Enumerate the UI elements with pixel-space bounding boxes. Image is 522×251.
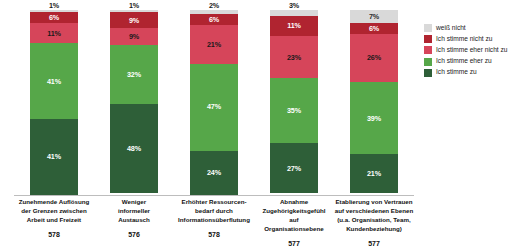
bar-segment[interactable]: 9% <box>110 12 158 29</box>
bar-segment[interactable]: 24% <box>190 151 238 195</box>
category-label: AbnahmeZugehörigkeitsgefühlaufOrganisati… <box>254 198 334 249</box>
segment-value-label: 21% <box>207 41 221 48</box>
category-label-line: Zugehörigkeitsgefühl <box>254 207 334 216</box>
bar-stack[interactable]: 1%9%9%32%48% <box>110 10 158 195</box>
bar-segment[interactable]: 26% <box>350 34 398 82</box>
category-label: Zunehmende Auflösungder Grenzen zwischen… <box>14 198 94 249</box>
segment-value-label: 1% <box>129 2 139 9</box>
bar-segment[interactable]: 47% <box>190 64 238 151</box>
segment-value-label: 41% <box>47 78 61 85</box>
segment-value-label: 7% <box>369 13 379 20</box>
segment-value-label: 3% <box>289 2 299 9</box>
legend-swatch-icon <box>424 46 432 54</box>
segment-value-label: 24% <box>207 169 221 176</box>
bar-stack[interactable]: 7%6%26%39%21% <box>350 10 398 195</box>
bar-stack[interactable]: 2%6%21%47%24% <box>190 10 238 195</box>
category-label-line: auf <box>254 216 334 225</box>
legend-swatch-icon <box>424 69 432 77</box>
segment-value-label: 32% <box>127 71 141 78</box>
sample-size: 577 <box>334 239 414 249</box>
sample-size: 577 <box>254 239 334 249</box>
segment-value-label: 9% <box>129 17 139 24</box>
bar-group: 3%11%23%35%27% <box>254 10 334 195</box>
bar-group: 1%6%11%41%41% <box>14 10 94 195</box>
bar-group: 2%6%21%47%24% <box>174 10 254 195</box>
segment-value-label: 6% <box>209 16 219 23</box>
bar-segment[interactable]: 7% <box>350 10 398 23</box>
bar-segment[interactable]: 11% <box>270 16 318 36</box>
bar-segment[interactable]: 39% <box>350 82 398 154</box>
segment-value-label: 26% <box>367 54 381 61</box>
chart-legend: weiß nichtIch stimme nicht zuIch stimme … <box>424 24 520 80</box>
sample-size: 578 <box>174 230 254 240</box>
segment-value-label: 41% <box>47 153 61 160</box>
segment-value-label: 6% <box>369 25 379 32</box>
category-label-line: informeller <box>94 207 174 216</box>
stacked-bar-chart: 1%6%11%41%41%1%9%9%32%48%2%6%21%47%24%3%… <box>0 0 522 251</box>
legend-swatch-icon <box>424 58 432 66</box>
category-axis-labels: Zunehmende Auflösungder Grenzen zwischen… <box>14 198 414 249</box>
category-label-line: Etablierung von Vertrauen <box>334 198 414 207</box>
category-label-line: Abnahme <box>254 198 334 207</box>
segment-value-label: 35% <box>287 107 301 114</box>
legend-item[interactable]: Ich stimme zu <box>424 69 520 77</box>
category-label-line: Arbeit und Freizeit <box>14 216 94 225</box>
category-label-line: Weniger <box>94 198 174 207</box>
legend-item[interactable]: weiß nicht <box>424 24 520 32</box>
segment-value-label: 47% <box>207 103 221 110</box>
bar-stack[interactable]: 3%11%23%35%27% <box>270 10 318 195</box>
legend-label: weiß nicht <box>436 25 466 32</box>
legend-label: Ich stimme nicht zu <box>436 36 492 43</box>
segment-value-label: 27% <box>287 165 301 172</box>
category-label-line: bedarf durch <box>174 207 254 216</box>
bar-segment[interactable]: 48% <box>110 104 158 193</box>
bar-segment[interactable]: 11% <box>30 23 78 43</box>
segment-value-label: 48% <box>127 145 141 152</box>
segment-value-label: 1% <box>49 2 59 9</box>
sample-size: 576 <box>94 230 174 240</box>
category-label-line: Organisationsebene <box>254 225 334 234</box>
segment-value-label: 11% <box>47 30 61 37</box>
bar-segment[interactable]: 35% <box>270 78 318 143</box>
legend-label: Ich stimme zu <box>436 69 477 76</box>
segment-value-label: 9% <box>129 33 139 40</box>
bar-segment[interactable]: 6% <box>190 14 238 25</box>
category-label-line: der Grenzen zwischen <box>14 207 94 216</box>
legend-label: Ich stimme eher nicht zu <box>436 47 507 54</box>
category-label-line: Austausch <box>94 216 174 225</box>
bar-segment[interactable]: 6% <box>350 23 398 34</box>
segment-value-label: 39% <box>367 115 381 122</box>
bar-segment[interactable]: 9% <box>110 28 158 45</box>
bar-segment[interactable]: 6% <box>30 12 78 23</box>
sample-size: 578 <box>14 230 94 240</box>
legend-item[interactable]: Ich stimme nicht zu <box>424 35 520 43</box>
bar-segment[interactable]: 21% <box>190 25 238 64</box>
bar-segment[interactable]: 23% <box>270 36 318 79</box>
bar-segment[interactable]: 32% <box>110 45 158 104</box>
bar-group: 1%9%9%32%48% <box>94 10 174 195</box>
bar-segment[interactable]: 27% <box>270 143 318 193</box>
bar-segment[interactable]: 41% <box>30 43 78 119</box>
segment-value-label: 2% <box>209 2 219 9</box>
axis-baseline <box>14 195 414 196</box>
category-label-line: Kundenbeziehung) <box>334 225 414 234</box>
category-label: Etablierung von Vertrauenauf verschieden… <box>334 198 414 249</box>
bar-stack[interactable]: 1%6%11%41%41% <box>30 10 78 195</box>
segment-value-label: 6% <box>49 14 59 21</box>
legend-swatch-icon <box>424 24 432 32</box>
category-label-line: auf verschiedenen Ebenen <box>334 207 414 216</box>
bar-group: 7%6%26%39%21% <box>334 10 414 195</box>
segment-value-label: 11% <box>287 22 301 29</box>
segment-value-label: 23% <box>287 54 301 61</box>
legend-label: Ich stimme eher zu <box>436 58 492 65</box>
bar-segment[interactable]: 41% <box>30 119 78 195</box>
category-label-line: Informationsüberflutung <box>174 216 254 225</box>
legend-item[interactable]: Ich stimme eher zu <box>424 58 520 66</box>
legend-swatch-icon <box>424 35 432 43</box>
plot-area: 1%6%11%41%41%1%9%9%32%48%2%6%21%47%24%3%… <box>14 10 414 195</box>
category-label-line: Zunehmende Auflösung <box>14 198 94 207</box>
legend-item[interactable]: Ich stimme eher nicht zu <box>424 46 520 54</box>
category-label-line: (u.a. Organisation, Team, <box>334 216 414 225</box>
bar-segment[interactable]: 21% <box>350 154 398 193</box>
category-label: Erhöhter Ressourcen-bedarf durchInformat… <box>174 198 254 249</box>
